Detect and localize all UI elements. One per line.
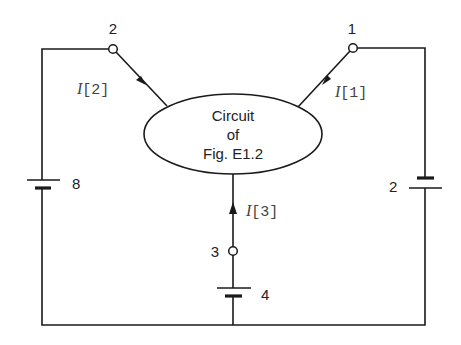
right-branch-wire — [357, 48, 425, 178]
circuit-diagram: 2 1 3 8 2 4 I[2] I[1] I[3] Circuit of Fi… — [0, 0, 461, 345]
source-2-label: 2 — [389, 178, 397, 195]
block-title-line-2: of — [227, 126, 240, 143]
node-2-label: 2 — [109, 20, 117, 37]
current-i2-label: I[2] — [76, 80, 109, 99]
battery-4-icon — [217, 288, 251, 296]
block-title-line-1: Circuit — [212, 107, 255, 124]
current-arrow-i2 — [116, 52, 167, 106]
arrow-up-icon — [229, 202, 237, 214]
source-4-label: 4 — [261, 286, 269, 303]
block-title-line-3: Fig. E1.2 — [203, 145, 263, 162]
battery-8-icon — [27, 180, 60, 188]
node-1-label: 1 — [348, 20, 356, 37]
node-3-label: 3 — [211, 243, 219, 260]
node-3-terminal — [229, 247, 238, 256]
battery-2-icon — [409, 178, 442, 188]
current-i3-label: I[3] — [245, 202, 278, 221]
current-i1-label: I[1] — [334, 83, 367, 102]
source-8-label: 8 — [72, 175, 80, 192]
